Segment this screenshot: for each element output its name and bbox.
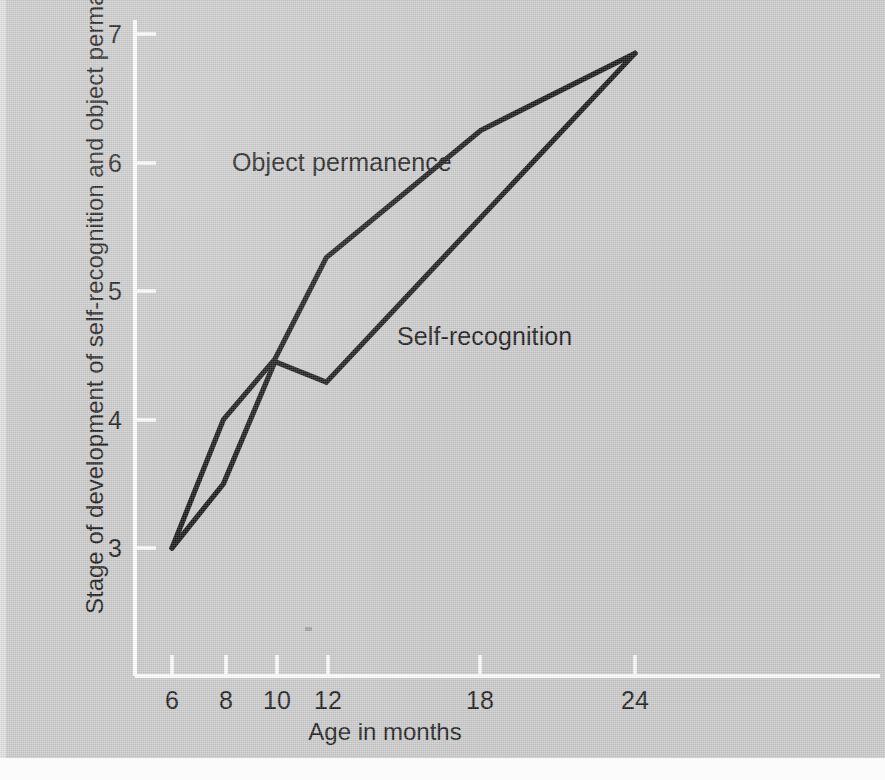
x-tick-label-6: 6 — [150, 686, 194, 715]
x-tick-label-24: 24 — [613, 686, 657, 715]
series-annotation-self-recognition: Self-recognition — [397, 322, 572, 351]
page-bottom-margin — [0, 758, 885, 780]
x-tick-label-12: 12 — [306, 686, 350, 715]
x-axis-label: Age in months — [0, 718, 770, 746]
x-axis-ticks — [172, 655, 635, 676]
chart-figure: 7 6 5 4 3 6 8 10 12 18 24 Stage of devel… — [0, 0, 885, 780]
scan-speck — [305, 627, 312, 631]
x-tick-label-8: 8 — [204, 686, 248, 715]
series-annotation-object-permanence: Object permanence — [232, 148, 452, 177]
y-axis-ticks — [135, 34, 156, 548]
y-axis-label: Stage of development of self-recognition… — [81, 0, 109, 614]
series-line-self-recognition — [172, 53, 635, 548]
x-tick-label-10: 10 — [255, 686, 299, 715]
plot-area — [0, 0, 885, 780]
x-tick-label-18: 18 — [458, 686, 502, 715]
